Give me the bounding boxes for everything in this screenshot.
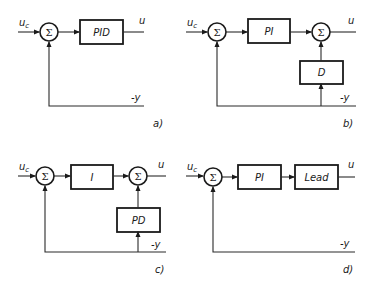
sigma-icon: Σ <box>209 172 216 183</box>
caption-a: a) <box>153 118 163 129</box>
lead-block-label: Lead <box>304 172 329 183</box>
sigma-icon: Σ <box>134 171 141 182</box>
input-label: uc <box>187 161 197 174</box>
feedback-label: -y <box>151 239 162 250</box>
output-label: u <box>158 159 164 170</box>
caption-c: c) <box>155 264 164 275</box>
caption-d: d) <box>343 264 353 275</box>
input-label: uc <box>19 17 29 30</box>
pd-block-label: PD <box>132 215 146 226</box>
feedback-label: -y <box>340 238 351 249</box>
input-label: uc <box>187 17 197 30</box>
feedback-line <box>213 187 355 252</box>
diagram-d: uc Σ PI Lead u -y d) <box>186 159 355 275</box>
diagram-c: uc Σ I Σ u PD -y c) <box>18 159 166 275</box>
diagram-a: uc Σ PID u -y a) <box>18 15 163 129</box>
controller-structures-figure: uc Σ PID u -y a) uc Σ PI Σ u D - <box>0 0 370 288</box>
output-label: u <box>348 159 354 170</box>
feedback-line <box>49 42 144 106</box>
i-block-label: I <box>91 172 94 183</box>
feedback-label: -y <box>131 92 142 103</box>
sigma-icon: Σ <box>213 27 220 38</box>
pid-block-label: PID <box>93 27 110 38</box>
pi-block-label: PI <box>255 172 264 183</box>
sigma-icon: Σ <box>45 27 52 38</box>
d-block-label: D <box>318 67 326 78</box>
feedback-label: -y <box>340 92 351 103</box>
sigma-icon: Σ <box>317 27 324 38</box>
sigma-icon: Σ <box>41 171 48 182</box>
caption-b: b) <box>343 118 353 129</box>
input-label: uc <box>19 161 29 174</box>
output-label: u <box>348 15 354 26</box>
output-label: u <box>139 15 145 26</box>
diagram-b: uc Σ PI Σ u D -y b) <box>186 15 356 129</box>
pi-block-label: PI <box>265 26 274 37</box>
